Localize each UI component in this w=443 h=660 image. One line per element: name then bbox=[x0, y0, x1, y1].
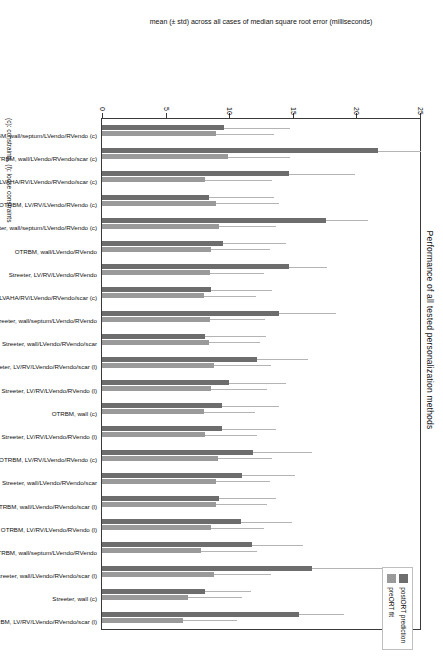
chart-title: Performance of all tested personalizatio… bbox=[425, 0, 435, 660]
bar-group bbox=[102, 467, 420, 490]
bar-pre-ort-fit bbox=[102, 177, 205, 182]
bar-pre-ort-fit bbox=[102, 479, 216, 484]
error-bar bbox=[299, 614, 344, 615]
bar-pre-ort-fit bbox=[102, 224, 219, 229]
rotated-figure-wrapper: Performance of all tested personalizatio… bbox=[0, 0, 443, 660]
category-label: OTRBM, LV/RV/LVendo/RVendo/scar (l) bbox=[0, 618, 97, 625]
bar-group bbox=[102, 559, 420, 582]
error-bar bbox=[205, 336, 266, 337]
category-label: Streeter, wall (c) bbox=[52, 595, 97, 602]
error-bar bbox=[204, 296, 256, 297]
category-label: Streeter, LV/RV/LVendo/RVendo (l) bbox=[1, 433, 97, 440]
chart-legend: postORT predictionpreORT fit bbox=[382, 567, 413, 650]
error-bar bbox=[209, 197, 274, 198]
value-axis-title: mean (± std) across all cases of median … bbox=[101, 14, 421, 28]
bar-group bbox=[102, 444, 420, 467]
error-bar bbox=[241, 522, 292, 523]
error-bar bbox=[204, 412, 255, 413]
error-bar bbox=[210, 319, 265, 320]
error-bar bbox=[214, 574, 271, 575]
error-bar bbox=[252, 545, 303, 546]
bar-group bbox=[102, 397, 420, 420]
bar-group bbox=[102, 142, 420, 165]
category-label: OTRBM, wall (c) bbox=[52, 410, 97, 417]
bar-group bbox=[102, 165, 420, 188]
bar-post-ort-prediction bbox=[102, 287, 211, 292]
error-bar bbox=[222, 429, 277, 430]
bar-group bbox=[102, 281, 420, 304]
value-axis-tick-label: 0 bbox=[99, 107, 106, 109]
bar-group bbox=[102, 513, 420, 536]
bar-pre-ort-fit bbox=[102, 618, 183, 623]
bar-pre-ort-fit bbox=[102, 154, 228, 159]
error-bar bbox=[216, 481, 269, 482]
bar-group bbox=[102, 536, 420, 559]
bar-group bbox=[102, 490, 420, 513]
value-axis-title-text: mean (± std) across all cases of median … bbox=[150, 18, 372, 25]
error-bar bbox=[326, 220, 368, 221]
bar-post-ort-prediction bbox=[102, 496, 219, 501]
error-bar bbox=[219, 226, 276, 227]
bar-group bbox=[102, 212, 420, 235]
error-bar bbox=[210, 273, 263, 274]
error-bar bbox=[224, 128, 290, 129]
bar-post-ort-prediction bbox=[102, 311, 279, 316]
bar-post-ort-prediction bbox=[102, 519, 241, 524]
error-bar bbox=[214, 365, 271, 366]
error-bar bbox=[216, 504, 267, 505]
bar-post-ort-prediction bbox=[102, 125, 224, 130]
bar-post-ort-prediction bbox=[102, 589, 205, 594]
bar-post-ort-prediction bbox=[102, 542, 252, 547]
value-axis-tick-label: 15 bbox=[289, 107, 296, 109]
bar-post-ort-prediction bbox=[102, 380, 229, 385]
value-axis-tick-label: 5 bbox=[162, 107, 169, 109]
bar-group bbox=[102, 235, 420, 258]
category-label: OTRBM, LV/RV/LVendo/RVendo (c) bbox=[0, 456, 97, 463]
legend-swatch-icon bbox=[399, 574, 408, 583]
bar-post-ort-prediction bbox=[102, 612, 299, 617]
bar-post-ort-prediction bbox=[102, 218, 326, 223]
bar-post-ort-prediction bbox=[102, 357, 257, 362]
category-label: OTRBM, LV/RV/LVendo/RVendo (c) bbox=[0, 201, 97, 208]
value-axis-tick-label: 25 bbox=[417, 107, 424, 109]
error-bar bbox=[289, 174, 355, 175]
bar-pre-ort-fit bbox=[102, 386, 211, 391]
bar-group bbox=[102, 119, 420, 142]
error-bar bbox=[219, 498, 276, 499]
bar-pre-ort-fit bbox=[102, 270, 210, 275]
bar-pre-ort-fit bbox=[102, 363, 214, 368]
category-label: OTRBM, LV/RV/LVendo/RVendo (l) bbox=[1, 526, 97, 533]
error-bar bbox=[211, 290, 272, 291]
category-label: Streeter, LV/RV/LVendo/RVendo/scar (l) bbox=[0, 363, 97, 370]
plot-area: 0510152025 bbox=[101, 118, 421, 630]
bar-post-ort-prediction bbox=[102, 148, 378, 153]
error-bar bbox=[216, 203, 278, 204]
bar-group bbox=[102, 606, 420, 629]
bar-post-ort-prediction bbox=[102, 426, 222, 431]
chart-figure: Performance of all tested personalizatio… bbox=[0, 0, 443, 660]
category-label: Streeter, LV/RV/LVendo/RVendo bbox=[9, 271, 97, 278]
legend-item: postORT prediction bbox=[399, 574, 408, 643]
error-bar bbox=[242, 475, 295, 476]
bar-pre-ort-fit bbox=[102, 525, 211, 530]
category-label: OTRBM, LVAHA/RV/LVendo/RVendo/scar (c) bbox=[0, 178, 97, 185]
legend-item: preORT fit bbox=[387, 574, 396, 643]
category-label: OTRBM, wall/LVendo/RVendo/scar (l) bbox=[0, 503, 97, 510]
bar-group bbox=[102, 328, 420, 351]
category-label: OTRBM, wall/LVendo/RVendo bbox=[15, 248, 97, 255]
category-label: Streeter, wall/septum/LVendo/RVendo (c) bbox=[0, 224, 97, 231]
bar-post-ort-prediction bbox=[102, 171, 289, 176]
value-axis-tick-label: 20 bbox=[353, 107, 360, 109]
category-label: Streeter, wall/septum/LVendo/RVendo bbox=[0, 317, 97, 324]
bar-group bbox=[102, 189, 420, 212]
error-bar bbox=[253, 452, 312, 453]
category-label: OTRBM, wall/LVendo/RVendo/scar (c) bbox=[0, 155, 97, 162]
error-bar bbox=[183, 620, 236, 621]
bar-post-ort-prediction bbox=[102, 450, 253, 455]
error-bar bbox=[211, 528, 263, 529]
error-bar bbox=[279, 313, 336, 314]
bar-pre-ort-fit bbox=[102, 502, 216, 507]
error-bar bbox=[216, 134, 273, 135]
bar-pre-ort-fit bbox=[102, 247, 211, 252]
error-bar bbox=[205, 180, 272, 181]
